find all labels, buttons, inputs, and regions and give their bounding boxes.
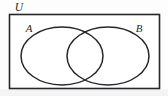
set-b-label: B: [136, 22, 143, 34]
page-background-tint: [0, 90, 168, 97]
venn-diagram-canvas: U A B: [0, 0, 168, 96]
venn-diagram-figure: U A B: [0, 0, 168, 96]
set-a-label: A: [25, 22, 33, 34]
universal-set-label: U: [15, 1, 24, 13]
